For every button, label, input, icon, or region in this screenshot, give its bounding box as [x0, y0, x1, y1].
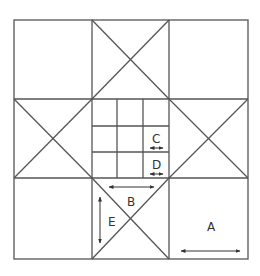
label-e: E: [108, 215, 116, 229]
label-b: B: [127, 195, 135, 209]
label-d: D: [152, 158, 161, 172]
label-c: C: [152, 132, 160, 146]
quilt-block-diagram: C D B E A: [0, 0, 260, 276]
label-a: A: [207, 220, 216, 234]
